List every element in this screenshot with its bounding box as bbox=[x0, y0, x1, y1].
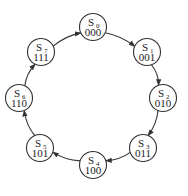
state-code: 010 bbox=[155, 97, 172, 109]
state-nodes: S0000S1001S2010S3011S4100S5101S6110S7111 bbox=[6, 14, 177, 179]
state-code: 110 bbox=[11, 97, 28, 109]
transition-arrow-s3-s4 bbox=[106, 152, 130, 160]
state-node-s2: S2010 bbox=[150, 85, 177, 112]
state-node-s1: S1001 bbox=[134, 39, 161, 66]
transition-arrow-s2-s3 bbox=[148, 111, 158, 136]
state-node-s3: S3011 bbox=[130, 135, 157, 162]
transition-arrow-s6-s7 bbox=[25, 64, 35, 86]
state-code: 011 bbox=[135, 147, 151, 159]
state-code: 111 bbox=[33, 51, 49, 63]
state-code: 101 bbox=[32, 147, 49, 159]
state-code: 000 bbox=[85, 26, 102, 38]
state-node-s4: S4100 bbox=[80, 152, 107, 179]
state-diagram: S0000S1001S2010S3011S4100S5101S6110S7111 bbox=[0, 0, 188, 196]
state-node-s6: S6110 bbox=[6, 85, 33, 112]
transition-arrow-s7-s0 bbox=[53, 33, 81, 46]
state-node-s7: S7111 bbox=[28, 39, 55, 66]
transition-arrow-s0-s1 bbox=[105, 33, 134, 47]
transition-arrow-s5-s6 bbox=[24, 110, 35, 135]
state-node-s5: S5101 bbox=[27, 135, 54, 162]
state-code: 100 bbox=[85, 164, 102, 176]
transition-arrow-s1-s2 bbox=[151, 65, 158, 85]
transition-arrow-s4-s5 bbox=[53, 152, 80, 161]
state-code: 001 bbox=[139, 51, 156, 63]
state-node-s0: S0000 bbox=[80, 14, 107, 41]
